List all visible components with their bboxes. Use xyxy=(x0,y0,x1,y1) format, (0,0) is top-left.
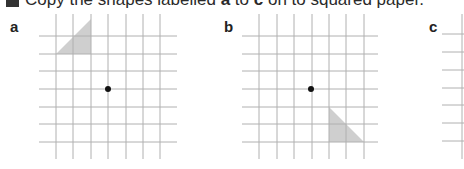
squared-grids xyxy=(0,0,464,169)
figure-b-centre-dot xyxy=(308,86,314,92)
figure-a-centre-dot xyxy=(105,86,111,92)
